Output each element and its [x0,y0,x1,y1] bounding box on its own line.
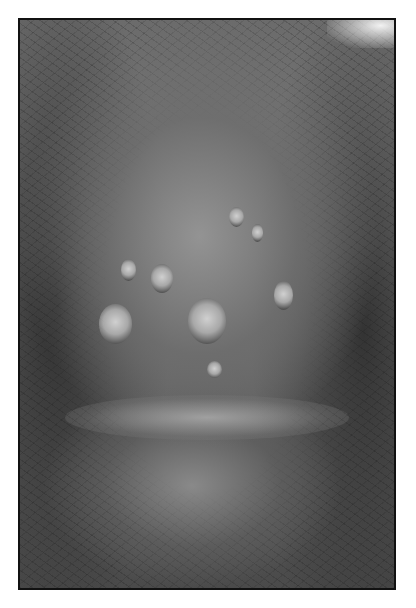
bright-corner [327,20,394,48]
photo-frame [18,18,396,590]
hair-texture [20,20,394,588]
clinical-photograph [20,20,394,588]
